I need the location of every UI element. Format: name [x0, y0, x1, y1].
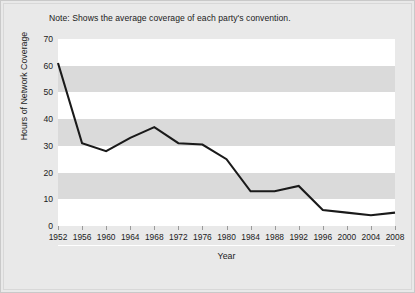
- y-axis-title: Hours of Network Coverage: [19, 11, 29, 161]
- x-axis-tick-label: 1972: [169, 232, 188, 242]
- x-axis-tick-label: 2008: [386, 232, 405, 242]
- x-axis-tick: [251, 226, 252, 230]
- y-axis-tick-label: 0: [31, 221, 53, 231]
- y-axis: 010203040506070: [27, 39, 53, 226]
- x-axis-tick-label: 1964: [121, 232, 140, 242]
- x-axis-rule: [58, 245, 395, 246]
- x-axis-tick: [154, 226, 155, 230]
- x-axis-tick-label: 1996: [313, 232, 332, 242]
- x-axis-tick-label: 1984: [241, 232, 260, 242]
- x-axis-tick-label: 1960: [97, 232, 116, 242]
- x-axis-tick: [347, 226, 348, 230]
- y-axis-tick-label: 30: [31, 141, 53, 151]
- x-axis-tick: [106, 226, 107, 230]
- x-axis-tick-label: 1952: [49, 232, 68, 242]
- y-axis-tick-label: 60: [31, 61, 53, 71]
- x-axis-tick: [275, 226, 276, 230]
- x-axis-tick: [299, 226, 300, 230]
- y-axis-tick-label: 40: [31, 114, 53, 124]
- x-axis-tick: [82, 226, 83, 230]
- x-axis-tick-label: 1992: [289, 232, 308, 242]
- x-axis-tick-label: 1988: [265, 232, 284, 242]
- x-axis-tick-label: 1956: [73, 232, 92, 242]
- x-axis-tick: [130, 226, 131, 230]
- x-axis-tick: [371, 226, 372, 230]
- x-axis-tick: [395, 226, 396, 230]
- y-axis-tick-label: 70: [31, 34, 53, 44]
- x-axis-tick-label: 1976: [193, 232, 212, 242]
- plot-area: [58, 39, 395, 226]
- y-axis-tick-label: 20: [31, 168, 53, 178]
- x-axis-tick: [178, 226, 179, 230]
- x-axis-tick-label: 2004: [362, 232, 381, 242]
- x-axis-tick: [202, 226, 203, 230]
- x-axis-tick-label: 2000: [338, 232, 357, 242]
- x-axis-title: Year: [58, 251, 395, 261]
- chart-note: Note: Shows the average coverage of each…: [49, 13, 291, 23]
- data-line: [58, 39, 395, 226]
- y-axis-tick-label: 10: [31, 194, 53, 204]
- y-axis-tick-label: 50: [31, 87, 53, 97]
- x-axis-tick-label: 1968: [145, 232, 164, 242]
- x-axis-tick: [323, 226, 324, 230]
- x-axis-tick: [58, 226, 59, 230]
- chart-figure: Note: Shows the average coverage of each…: [0, 0, 415, 293]
- x-axis-tick: [227, 226, 228, 230]
- x-axis-tick-label: 1980: [217, 232, 236, 242]
